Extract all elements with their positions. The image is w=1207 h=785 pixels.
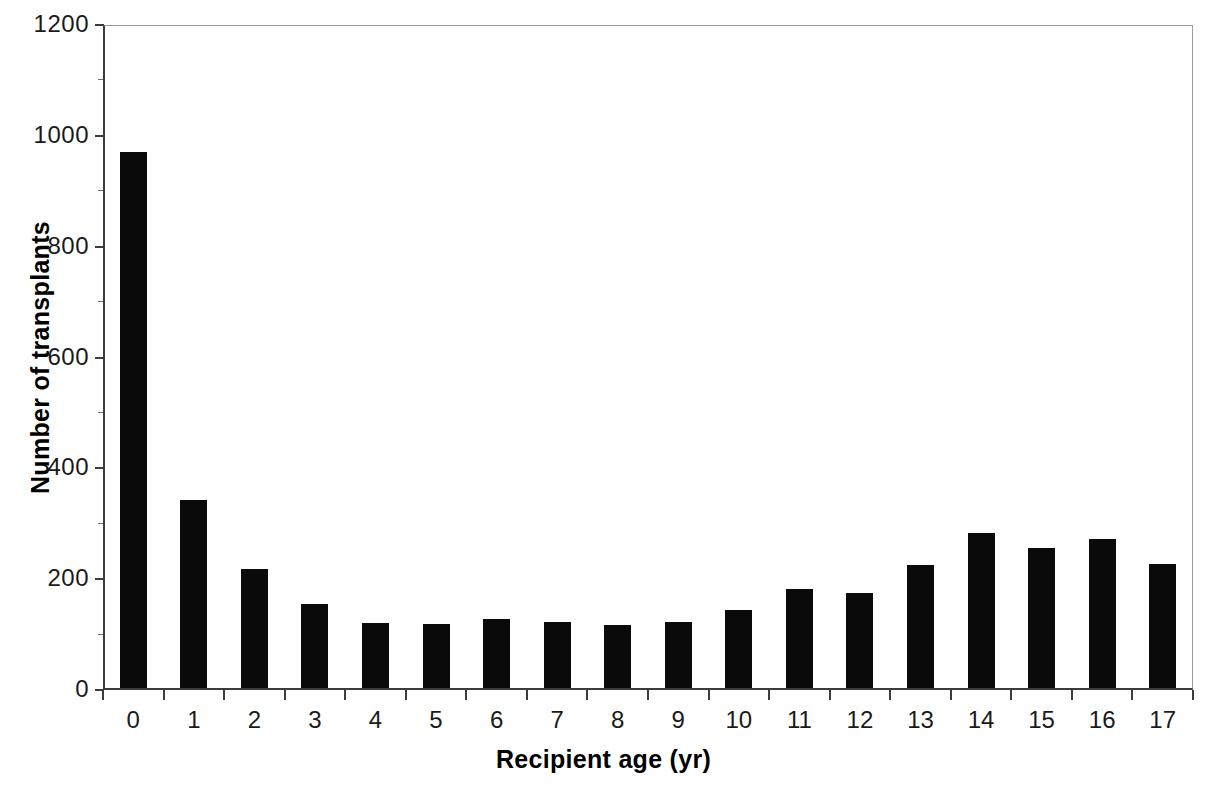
x-axis-tick	[465, 690, 467, 700]
x-axis-tick	[586, 690, 588, 700]
y-axis-tick-label: 0	[75, 677, 89, 701]
x-axis-tick	[163, 690, 165, 700]
x-axis-tick-label: 16	[1072, 707, 1132, 733]
x-axis-tick	[708, 690, 710, 700]
bar	[180, 500, 207, 688]
x-axis-tick	[1071, 690, 1073, 700]
x-axis-tick	[284, 690, 286, 700]
x-axis-tick-label: 14	[951, 707, 1011, 733]
x-axis-tick-label: 13	[891, 707, 951, 733]
bar	[665, 622, 692, 689]
plot-area	[103, 25, 1193, 690]
bar	[544, 622, 571, 688]
x-axis-tick-label: 2	[224, 707, 284, 733]
x-axis-tick	[405, 690, 407, 700]
x-axis-tick	[102, 690, 104, 700]
y-axis-tick-label: 1200	[34, 12, 89, 36]
y-axis-tick-label: 600	[47, 345, 89, 369]
x-axis-tick-label: 7	[527, 707, 587, 733]
y-axis-tick-label: 1000	[34, 123, 89, 147]
chart-page: Number of transplants 020040060080010001…	[0, 0, 1207, 785]
x-axis-tick-label: 17	[1133, 707, 1193, 733]
x-axis-tick-label: 0	[103, 707, 163, 733]
bar	[786, 589, 813, 688]
x-axis-tick	[1010, 690, 1012, 700]
y-axis-tick-label: 400	[47, 455, 89, 479]
bar	[120, 152, 147, 688]
bar	[483, 619, 510, 688]
bar	[301, 604, 328, 688]
x-axis-tick	[647, 690, 649, 700]
x-axis-tick	[889, 690, 891, 700]
x-axis-tick-label: 1	[164, 707, 224, 733]
x-axis-tick-label: 15	[1012, 707, 1072, 733]
bar	[604, 625, 631, 688]
bar	[907, 565, 934, 688]
x-axis-tick	[829, 690, 831, 700]
x-axis-tick-label: 8	[588, 707, 648, 733]
x-axis-title: Recipient age (yr)	[0, 745, 1207, 774]
bar	[968, 533, 995, 688]
x-axis-tick-label: 3	[285, 707, 345, 733]
x-axis-tick	[223, 690, 225, 700]
x-axis-tick-label: 10	[709, 707, 769, 733]
bar	[362, 623, 389, 688]
x-axis-tick	[344, 690, 346, 700]
bar-series	[105, 26, 1192, 688]
bar	[1028, 548, 1055, 688]
x-axis-tick-label: 5	[406, 707, 466, 733]
bar	[1149, 564, 1176, 688]
y-axis-tick-label: 200	[47, 566, 89, 590]
bar	[241, 569, 268, 688]
x-axis-tick	[1192, 690, 1194, 700]
x-axis-tick	[950, 690, 952, 700]
x-axis-tick	[526, 690, 528, 700]
bar	[423, 624, 450, 688]
x-axis-tick	[768, 690, 770, 700]
bar	[846, 593, 873, 688]
x-axis-tick-label: 9	[648, 707, 708, 733]
bar	[1089, 539, 1116, 688]
x-axis-tick-label: 12	[830, 707, 890, 733]
x-axis-tick-label: 4	[346, 707, 406, 733]
x-axis-tick-label: 6	[467, 707, 527, 733]
y-axis-tick-label: 800	[47, 234, 89, 258]
x-axis-tick	[1131, 690, 1133, 700]
x-axis-tick-label: 11	[769, 707, 829, 733]
bar	[725, 610, 752, 688]
